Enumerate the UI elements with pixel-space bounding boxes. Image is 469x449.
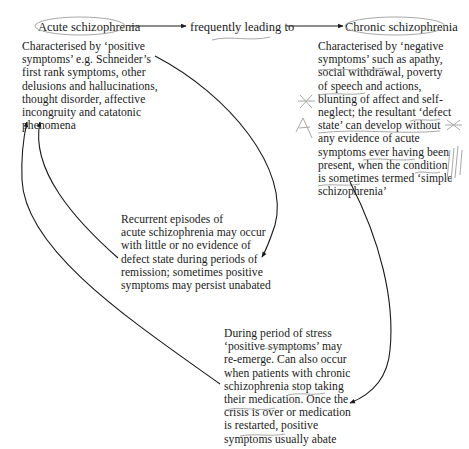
pencil-star-left	[298, 95, 315, 108]
chronic-schizophrenia-title: Chronic schizophrenia	[345, 20, 458, 34]
pencil-underline-frequently	[212, 37, 270, 40]
recurrent-episodes-description: Recurrent episodes of acute schizophreni…	[121, 213, 281, 292]
acute-description: Characterised by ‘positive symptoms’ e.g…	[22, 40, 172, 132]
arrow-recurrent-to-acute	[39, 122, 118, 258]
chronic-description: Characterised by ‘negative symptoms’ suc…	[318, 40, 468, 198]
pencil-a-mark	[296, 118, 312, 138]
frequently-leading-to-label: frequently leading to	[190, 20, 294, 34]
acute-schizophrenia-title: Acute schizophrenia	[38, 20, 140, 34]
stress-reemergence-description: During period of stress ‘positive sympto…	[224, 327, 374, 446]
